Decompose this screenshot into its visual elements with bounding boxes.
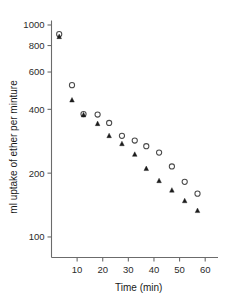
data-point-filled-triangles-11 (195, 208, 200, 213)
data-point-filled-triangles-2 (81, 112, 86, 117)
data-point-filled-triangles-5 (120, 141, 125, 146)
data-point-open-circles-5 (119, 133, 124, 138)
data-point-filled-triangles-1 (70, 97, 75, 102)
data-point-open-circles-10 (182, 179, 187, 184)
y-tick-label-1000: 1000 (23, 19, 44, 30)
x-tick-label-30: 30 (123, 264, 134, 275)
data-point-open-circles-6 (132, 138, 137, 143)
x-tick-label-40: 40 (149, 264, 160, 275)
scatter-plot-svg: 1002004006008001000102030405060Time (min… (0, 0, 238, 300)
data-point-filled-triangles-8 (157, 178, 162, 183)
data-point-filled-triangles-3 (95, 121, 100, 126)
x-tick-label-20: 20 (97, 264, 108, 275)
data-point-open-circles-3 (95, 112, 100, 117)
x-tick-label-60: 60 (200, 264, 211, 275)
y-tick-label-800: 800 (29, 40, 45, 51)
y-tick-label-200: 200 (29, 168, 45, 179)
y-axis-label: ml uptake of ether per minture (8, 80, 19, 214)
y-tick-label-100: 100 (29, 231, 45, 242)
data-point-open-circles-7 (144, 144, 149, 149)
x-axis-label: Time (min) (115, 282, 162, 293)
data-point-open-circles-11 (195, 191, 200, 196)
chart-figure: 1002004006008001000102030405060Time (min… (0, 0, 238, 300)
x-tick-label-50: 50 (174, 264, 185, 275)
data-point-filled-triangles-6 (132, 152, 137, 157)
data-point-open-circles-1 (69, 83, 74, 88)
data-point-open-circles-8 (156, 150, 161, 155)
y-tick-label-400: 400 (29, 104, 45, 115)
data-point-open-circles-4 (107, 120, 112, 125)
data-point-filled-triangles-10 (182, 198, 187, 203)
data-point-filled-triangles-4 (107, 133, 112, 138)
data-point-open-circles-9 (169, 164, 174, 169)
series-filled-triangles (57, 34, 200, 213)
data-point-filled-triangles-7 (144, 166, 149, 171)
y-tick-label-600: 600 (29, 66, 45, 77)
series-open-circles (57, 32, 201, 197)
x-tick-label-10: 10 (72, 264, 83, 275)
data-point-filled-triangles-9 (170, 188, 175, 193)
